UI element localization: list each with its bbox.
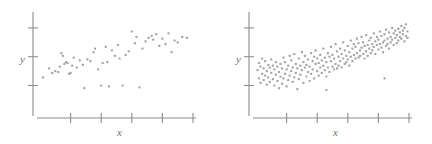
data-point [362, 41, 364, 43]
data-point [152, 39, 154, 41]
data-point [356, 52, 358, 54]
data-point [86, 58, 88, 60]
data-point [62, 55, 64, 57]
data-point [299, 65, 301, 67]
data-point [289, 55, 291, 57]
data-point [174, 39, 176, 41]
data-point [273, 68, 275, 70]
data-point [353, 54, 355, 56]
data-point [299, 74, 301, 76]
data-point [312, 68, 314, 70]
data-point [138, 86, 140, 88]
data-point [71, 65, 73, 67]
data-point [365, 34, 367, 36]
data-point [108, 85, 110, 87]
data-point [356, 38, 358, 40]
data-point [333, 68, 335, 70]
data-point [267, 76, 269, 78]
data-point [273, 84, 275, 86]
data-point [278, 87, 280, 89]
left-y-axis-label: y [19, 53, 25, 65]
data-point [376, 36, 378, 38]
data-point [318, 62, 320, 64]
data-point [325, 89, 327, 91]
data-point [403, 27, 405, 29]
data-point [313, 77, 315, 79]
data-point [282, 57, 284, 59]
data-point [402, 30, 404, 32]
data-point [383, 39, 385, 41]
data-point [186, 37, 188, 39]
data-point [276, 80, 278, 82]
data-point [307, 58, 309, 60]
data-point [256, 69, 258, 71]
data-point [261, 73, 263, 75]
data-point [302, 61, 304, 63]
data-point [60, 52, 62, 54]
data-point [284, 73, 286, 75]
right-plot-dots [256, 23, 408, 91]
data-point [102, 62, 104, 64]
data-point [331, 54, 333, 56]
data-point [276, 66, 278, 68]
data-point [177, 41, 179, 43]
data-point [264, 60, 266, 62]
data-point [290, 70, 292, 72]
data-point [319, 66, 321, 68]
data-point [111, 49, 113, 51]
data-point [57, 71, 59, 73]
data-point [287, 79, 289, 81]
data-point [148, 37, 150, 39]
data-point [293, 53, 295, 55]
data-point [318, 75, 320, 77]
data-point [281, 67, 283, 69]
data-point [336, 50, 338, 52]
data-point [272, 65, 274, 67]
data-point [298, 78, 300, 80]
data-point [400, 38, 402, 40]
data-point [368, 39, 370, 41]
data-point [114, 55, 116, 57]
data-point [324, 69, 326, 71]
data-point [379, 43, 381, 45]
data-point [353, 43, 355, 45]
data-point [351, 60, 353, 62]
data-point [259, 66, 261, 68]
data-point [66, 62, 68, 64]
data-point [379, 30, 381, 32]
data-point [342, 57, 344, 59]
data-point [305, 75, 307, 77]
data-point [377, 48, 379, 50]
data-point [403, 40, 405, 42]
scatterplot-figure: y x y x [0, 0, 432, 144]
data-point [344, 49, 346, 51]
data-point [319, 54, 321, 56]
data-point [296, 67, 298, 69]
data-point [308, 80, 310, 82]
data-point [370, 52, 372, 54]
data-point [301, 69, 303, 71]
data-point [339, 60, 341, 62]
data-point [339, 48, 341, 50]
data-point [380, 35, 382, 37]
right-scatter-panel: y x [216, 0, 432, 144]
data-point [328, 56, 330, 58]
data-point [342, 41, 344, 43]
data-point [365, 50, 367, 52]
data-point [279, 75, 281, 77]
data-point [92, 51, 94, 53]
data-point [83, 87, 85, 89]
data-point [327, 52, 329, 54]
data-point [390, 41, 392, 43]
data-point [402, 33, 404, 35]
data-point [272, 78, 274, 80]
right-x-axis-label: x [332, 126, 338, 138]
data-point [330, 46, 332, 48]
data-point [48, 67, 50, 69]
data-point [316, 70, 318, 72]
data-point [396, 42, 398, 44]
data-point [370, 37, 372, 39]
data-point [336, 67, 338, 69]
data-point [258, 77, 260, 79]
data-point [330, 60, 332, 62]
